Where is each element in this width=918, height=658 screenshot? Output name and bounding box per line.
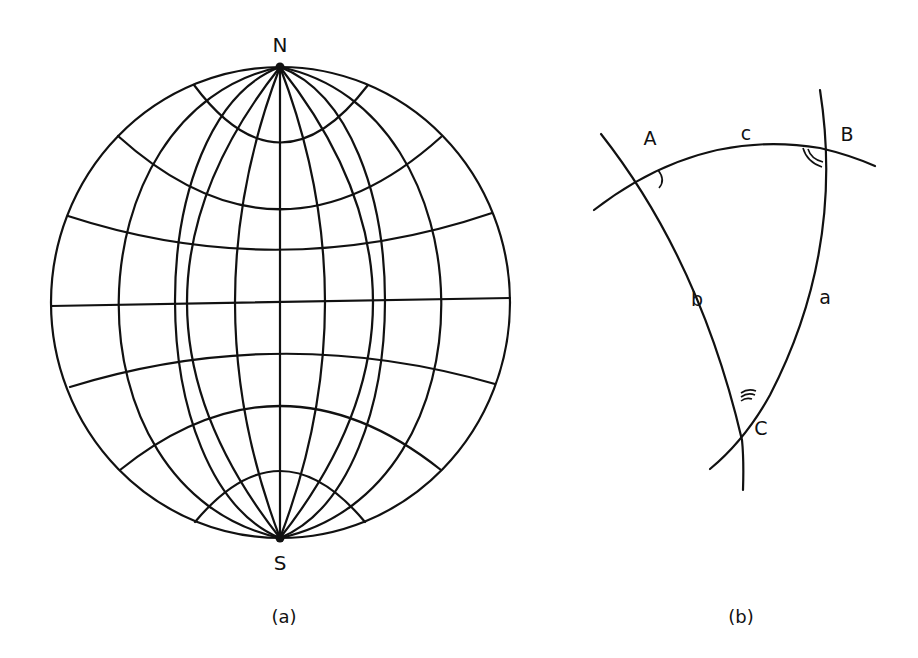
angle-marker-a — [658, 170, 662, 188]
caption-b: (b) — [728, 606, 753, 627]
angle-marker-c-inner — [741, 398, 752, 401]
side-b-arc — [601, 134, 743, 490]
side-a-label: a — [819, 286, 831, 308]
side-c-arc — [594, 144, 875, 210]
angle-marker-c-outer — [741, 390, 756, 393]
spherical-geometry-figure: N S (a) A c B b a C (b) — [0, 0, 918, 658]
panel-b-triangle — [594, 90, 875, 490]
north-label: N — [273, 33, 288, 57]
panel-a-globe — [51, 63, 510, 543]
south-label: S — [274, 551, 287, 575]
side-c-label: c — [741, 122, 751, 144]
angle-marker-c-mid — [741, 394, 755, 397]
side-b-label: b — [691, 288, 703, 310]
vertex-c-label: C — [754, 417, 767, 439]
vertex-a-label: A — [644, 127, 657, 149]
caption-a: (a) — [271, 606, 296, 627]
north-pole-dot — [276, 63, 285, 72]
vertex-b-label: B — [840, 123, 853, 145]
south-pole-dot — [276, 534, 285, 543]
